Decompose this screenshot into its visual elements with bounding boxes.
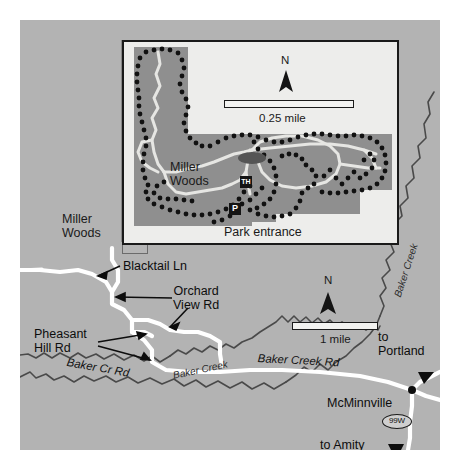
- route-shield-99w: 99W: [382, 414, 412, 429]
- north-arrow-inset: [279, 70, 293, 92]
- inset-map-vectors: [124, 42, 397, 243]
- scalebar-inset: [224, 100, 354, 108]
- road-network: [20, 248, 440, 450]
- map-figure: Miller Woods Blacktail Ln Orchard View R…: [0, 0, 458, 468]
- callout-arrows: [98, 266, 188, 360]
- to-amity-arrow: [388, 444, 404, 450]
- inset-detail-map: Miller Woods Park entrance TH P N 0.25 m…: [122, 40, 399, 245]
- scalebar-regional: [292, 322, 378, 330]
- parking-symbol: P: [229, 203, 241, 215]
- mcminnville-dot: [408, 386, 416, 394]
- trailhead-symbol: TH: [240, 176, 252, 188]
- north-arrow-regional: [320, 292, 336, 314]
- pond-feature: [238, 152, 266, 164]
- road-secondary: [20, 269, 42, 270]
